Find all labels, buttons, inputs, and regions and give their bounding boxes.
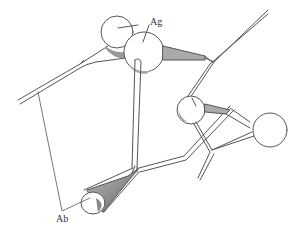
right-arm [194, 108, 254, 180]
label-antibody: Ab [56, 213, 68, 224]
upper-left-arm [18, 46, 126, 104]
ab-pointer-lines [38, 92, 90, 211]
cone-end-cap [81, 192, 105, 214]
diagram-canvas [0, 0, 303, 235]
sphere-right [253, 113, 287, 147]
upper-right-arm [188, 10, 268, 98]
central-stem [132, 59, 141, 172]
wedge-ag-to-junction [163, 46, 205, 60]
label-antigen: Ag [150, 16, 162, 27]
